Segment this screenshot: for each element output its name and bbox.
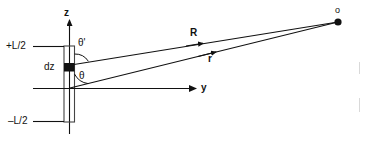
dz-element-label: dz [44,62,55,72]
field-point-label: o [335,6,340,15]
upper-end-label: +L/2 [6,41,26,51]
line-charge-diagram: z y +L/2 –L/2 dz θ' θ R r o [0,0,365,143]
vector-R-label: R [190,28,197,38]
angle-theta-label: θ [79,71,85,81]
dz-element-marker [65,64,75,72]
diagram-canvas [0,0,365,143]
vector-r-arrowhead [198,52,216,57]
angle-theta-prime-label: θ' [78,38,85,48]
angle-theta-prime-arc [75,54,89,61]
field-point-marker [334,18,341,25]
vector-R-line [74,22,338,65]
y-axis-label: y [201,83,207,93]
vector-r-label: r [208,54,212,64]
lower-end-label: –L/2 [8,116,27,126]
z-axis-label: z [64,8,69,18]
